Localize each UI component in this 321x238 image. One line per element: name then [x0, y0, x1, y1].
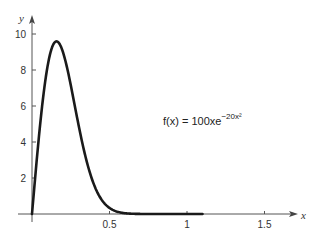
x-tick-label: 1	[184, 219, 190, 230]
y-tick-label: 10	[15, 29, 27, 40]
y-tick-label: 6	[20, 101, 26, 112]
function-plot: 0.511.5246810 x y f(x) = 100xe−20x²	[0, 0, 321, 238]
annotation-exponent: −20x²	[221, 112, 242, 121]
x-axis-label: x	[300, 209, 306, 221]
function-annotation: f(x) = 100xe−20x²	[163, 112, 242, 127]
annotation-base: f(x) = 100xe	[163, 115, 221, 127]
function-curve	[32, 41, 203, 214]
y-axis-label: y	[18, 12, 24, 24]
y-tick-label: 4	[20, 137, 26, 148]
x-tick-label: 0.5	[103, 219, 117, 230]
x-tick-label: 1.5	[258, 219, 272, 230]
y-tick-label: 8	[20, 65, 26, 76]
ticks: 0.511.5246810	[15, 29, 272, 230]
y-tick-label: 2	[20, 173, 26, 184]
